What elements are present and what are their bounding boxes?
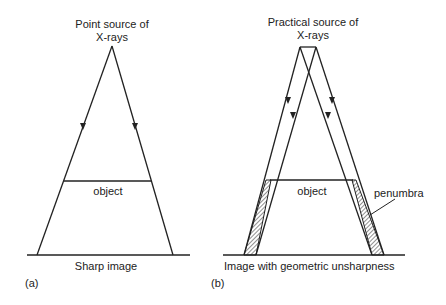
panel-a-image-label: Sharp image: [56, 260, 156, 272]
panel-b-title-line1: Practical source of: [258, 16, 368, 28]
ray-left: [37, 46, 112, 255]
panel-b-tag: (b): [211, 277, 224, 289]
panel-a-title-line2: X-rays: [62, 31, 162, 43]
panel-a-diagram: [27, 46, 190, 255]
panel-a-tag: (a): [25, 277, 38, 289]
panel-a-object-label: object: [78, 185, 138, 197]
panel-b-object-label: object: [282, 185, 342, 197]
ray-right: [112, 46, 173, 255]
arrow-down-icon: [325, 112, 331, 119]
panel-b-diagram: [223, 47, 405, 255]
arrow-down-icon: [80, 123, 86, 130]
panel-b-title-line2: X-rays: [258, 29, 368, 41]
ray-outer-right: [316, 47, 384, 255]
ray-inner-right: [300, 47, 372, 255]
panel-b-image-label: Image with geometric unsharpness: [224, 260, 395, 272]
panel-a-title-line1: Point source of: [62, 18, 162, 30]
panel-b-penumbra-label: penumbra: [374, 187, 424, 199]
ray-inner-left: [256, 47, 316, 255]
penumbra-leader: [370, 199, 395, 215]
arrow-down-icon: [132, 123, 138, 130]
ray-outer-left: [244, 47, 300, 255]
